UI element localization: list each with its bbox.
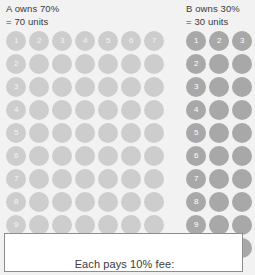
- unit-dot: [75, 169, 95, 189]
- unit-dot: 9: [186, 215, 206, 235]
- unit-dot: [144, 192, 164, 212]
- unit-dot: [232, 215, 252, 235]
- unit-dot-label: 2: [29, 31, 49, 51]
- unit-row: 2: [6, 54, 164, 77]
- unit-dot-label: 7: [6, 169, 26, 189]
- unit-dot-label: 5: [186, 123, 206, 143]
- unit-dot: [209, 100, 229, 120]
- unit-dot: 9: [6, 215, 26, 235]
- unit-dot: [121, 146, 141, 166]
- unit-dot-label: 6: [121, 31, 141, 51]
- unit-dot: 8: [6, 192, 26, 212]
- unit-row: 4: [6, 100, 164, 123]
- unit-dot: 6: [186, 146, 206, 166]
- unit-dot: [29, 215, 49, 235]
- unit-dot: [75, 100, 95, 120]
- unit-dot-label: 7: [144, 31, 164, 51]
- unit-dot: [52, 146, 72, 166]
- unit-dot: 5: [186, 123, 206, 143]
- unit-dot: 4: [75, 31, 95, 51]
- unit-dot: [121, 169, 141, 189]
- unit-dot: [209, 169, 229, 189]
- unit-dot: 2: [209, 31, 229, 51]
- unit-dot: [52, 123, 72, 143]
- unit-dot: [209, 192, 229, 212]
- unit-dot: [29, 77, 49, 97]
- unit-dot: [98, 77, 118, 97]
- unit-dot: [75, 215, 95, 235]
- unit-dot: [232, 77, 252, 97]
- unit-dot: [98, 146, 118, 166]
- unit-dot: [144, 215, 164, 235]
- unit-dot: [52, 54, 72, 74]
- unit-dot: [232, 100, 252, 120]
- unit-dot: 2: [186, 54, 206, 74]
- unit-dot: 3: [186, 77, 206, 97]
- unit-dot-label: 4: [6, 100, 26, 120]
- unit-dot-label: 1: [6, 31, 26, 51]
- unit-dot: [29, 100, 49, 120]
- unit-dot: [232, 54, 252, 74]
- unit-dot-label: 2: [186, 54, 206, 74]
- owner-a-subtitle: = 70 units: [6, 16, 59, 29]
- unit-dot: [98, 54, 118, 74]
- unit-row: 8: [6, 192, 164, 215]
- owner-a-title: A owns 70%: [6, 3, 59, 14]
- owner-b-subtitle: = 30 units: [186, 16, 240, 29]
- unit-dot-label: 8: [186, 192, 206, 212]
- unit-dot: 2: [29, 31, 49, 51]
- unit-dot: 6: [121, 31, 141, 51]
- unit-dot: [209, 54, 229, 74]
- unit-dot: [121, 100, 141, 120]
- unit-dot: [29, 169, 49, 189]
- unit-dot: [52, 215, 72, 235]
- unit-dot-label: 5: [98, 31, 118, 51]
- unit-row: 2: [186, 54, 252, 77]
- unit-dot: [52, 100, 72, 120]
- unit-dot: [144, 169, 164, 189]
- unit-dot: [52, 77, 72, 97]
- unit-dot: 6: [6, 146, 26, 166]
- unit-dot: [144, 54, 164, 74]
- unit-row: 1234567: [6, 31, 164, 54]
- unit-dot: 1: [186, 31, 206, 51]
- unit-dot: [232, 123, 252, 143]
- owner-b-title: B owns 30%: [186, 3, 240, 14]
- unit-dot: 7: [144, 31, 164, 51]
- unit-dot: [144, 146, 164, 166]
- owner-a-header: A owns 70% = 70 units: [6, 3, 59, 28]
- unit-dot: [121, 54, 141, 74]
- unit-dot: [98, 100, 118, 120]
- unit-dot: 3: [52, 31, 72, 51]
- unit-dot: [209, 146, 229, 166]
- unit-dot: [52, 192, 72, 212]
- unit-dot-label: 2: [6, 54, 26, 74]
- unit-dot: [75, 192, 95, 212]
- unit-dot: [75, 77, 95, 97]
- unit-dot: 8: [186, 192, 206, 212]
- unit-dot-label: 3: [52, 31, 72, 51]
- unit-dot: [75, 146, 95, 166]
- unit-dot-label: 4: [75, 31, 95, 51]
- unit-dot-label: 3: [186, 77, 206, 97]
- unit-dot: [121, 77, 141, 97]
- unit-dot-label: 5: [6, 123, 26, 143]
- unit-dot: [98, 215, 118, 235]
- unit-dot-label: 6: [6, 146, 26, 166]
- unit-dot: 5: [98, 31, 118, 51]
- unit-dot: [209, 123, 229, 143]
- unit-dot: 4: [186, 100, 206, 120]
- unit-dot: [232, 146, 252, 166]
- unit-dot-label: 3: [6, 77, 26, 97]
- unit-dot: [209, 77, 229, 97]
- unit-dot: [121, 192, 141, 212]
- unit-dot: 5: [6, 123, 26, 143]
- unit-row: 6: [6, 146, 164, 169]
- unit-row: 6: [186, 146, 252, 169]
- unit-dot: [121, 215, 141, 235]
- unit-dot: 3: [232, 31, 252, 51]
- unit-row: 8: [186, 192, 252, 215]
- unit-dot: [98, 169, 118, 189]
- unit-dot: [121, 123, 141, 143]
- unit-dot-label: 1: [186, 31, 206, 51]
